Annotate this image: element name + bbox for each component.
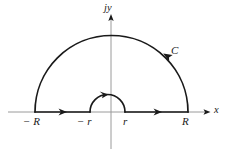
- inner-arc: [90, 95, 125, 113]
- point-label-R: R: [182, 116, 189, 127]
- y-axis-label: jy: [104, 3, 112, 14]
- x-axis-label: x: [214, 105, 219, 116]
- contour-label-c: C: [171, 45, 178, 56]
- point-label-r: r: [123, 116, 127, 127]
- point-label-minus-R: − R: [23, 116, 40, 127]
- point-label-minus-r: − r: [77, 116, 91, 127]
- axes-group: [8, 14, 211, 149]
- contour-diagram: [0, 0, 225, 155]
- direction-arrowheads: [59, 54, 173, 116]
